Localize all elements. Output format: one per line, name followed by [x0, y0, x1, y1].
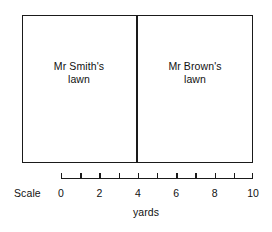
scale-tick-10 — [252, 173, 253, 179]
plot-label-brown: Mr Brown's lawn — [137, 60, 253, 86]
scale-word-label: Scale — [14, 187, 41, 199]
scale-tick-0 — [61, 173, 62, 179]
plot-label-brown-line1: Mr Brown's — [137, 60, 253, 73]
scale-tick-8 — [215, 173, 216, 179]
plot-label-brown-line2: lawn — [137, 73, 253, 86]
plot-label-smith-line1: Mr Smith's — [22, 60, 136, 73]
diagram-canvas: Mr Smith's lawn Mr Brown's lawn Scale 02… — [0, 0, 272, 232]
scale-units-text: yards — [133, 206, 159, 218]
scale-tick-6 — [176, 173, 177, 179]
scale-tick-label-4: 4 — [126, 187, 150, 199]
scale-tick-2 — [99, 173, 100, 179]
scale-tick-1 — [80, 173, 81, 179]
scale-tick-5 — [157, 173, 158, 179]
scale-tick-label-6: 6 — [164, 187, 188, 199]
scale-tick-9 — [234, 173, 235, 179]
scale-tick-label-0: 0 — [49, 187, 73, 199]
scale-tick-label-10: 10 — [241, 187, 265, 199]
scale-tick-label-8: 8 — [203, 187, 227, 199]
plot-label-smith: Mr Smith's lawn — [22, 60, 136, 86]
scale-tick-label-2: 2 — [87, 187, 111, 199]
lawn-boundary-divider — [136, 15, 138, 163]
scale-ruler — [61, 178, 253, 179]
scale-tick-7 — [195, 173, 196, 179]
scale-tick-4 — [138, 173, 139, 179]
plot-label-smith-line2: lawn — [22, 73, 136, 86]
scale-tick-3 — [119, 173, 120, 179]
scale-units-label: yards — [0, 206, 272, 218]
